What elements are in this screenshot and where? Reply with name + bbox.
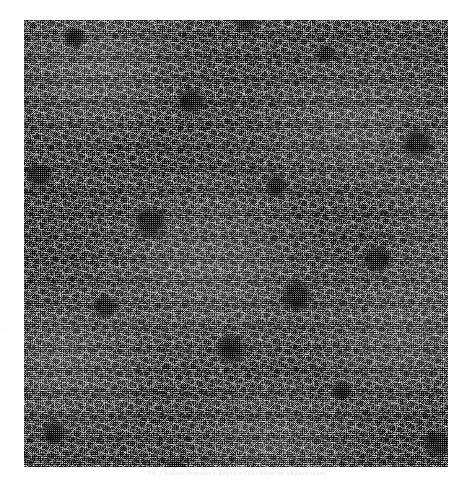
halftone-grain-layer — [24, 20, 448, 467]
filament-layer-a — [24, 20, 448, 467]
filament-layer-c — [24, 20, 448, 467]
scanned-page: Fig. 1. Projected distribution of partic… — [0, 0, 470, 501]
figure-caption: Fig. 1. Projected distribution of partic… — [88, 470, 388, 477]
filament-layer-b — [24, 20, 448, 467]
scan-dither-layer — [24, 20, 448, 467]
density-field-base-layer — [24, 20, 448, 467]
cluster-knot-layer — [24, 20, 448, 467]
void-layer — [24, 20, 448, 467]
scan-edge-fade-layer — [24, 20, 448, 467]
figure-panel — [24, 20, 448, 467]
